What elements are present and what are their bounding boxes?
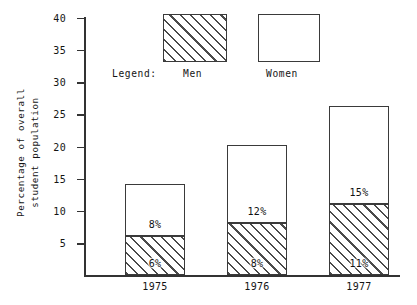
y-tick-label-30: 30: [53, 77, 66, 88]
bar-1977-segment-women: 15%: [329, 106, 389, 204]
bar-1976-segment-women: 12%: [227, 145, 287, 223]
stacked-bar-chart: Percentage of overall student population…: [0, 0, 417, 305]
bar-1975-women-value: 8%: [149, 219, 162, 230]
y-tick-5: 5: [77, 243, 84, 244]
bar-1977: 11% 15%: [329, 106, 389, 275]
y-tick-label-25: 25: [53, 109, 66, 120]
y-tick-20: 20: [77, 147, 84, 148]
bar-1975-men-value: 6%: [149, 258, 162, 269]
y-tick-35: 35: [77, 50, 84, 51]
y-axis-title-text: Percentage of overall student population: [14, 88, 42, 217]
x-axis-line: [84, 275, 400, 277]
y-axis-title: Percentage of overall student population: [0, 0, 56, 305]
bar-1976: 8% 12%: [227, 145, 287, 275]
y-tick-label-15: 15: [53, 173, 66, 184]
bar-1977-segment-men: 11%: [329, 204, 389, 276]
bar-1976-segment-men: 8%: [227, 223, 287, 275]
y-axis-line: [84, 17, 86, 277]
bar-1975: 6% 8%: [125, 184, 185, 275]
y-tick-40: 40: [77, 18, 84, 19]
y-tick-25: 25: [77, 114, 84, 115]
x-tick-label-1977: 1977: [346, 281, 371, 292]
bar-1975-segment-men: 6%: [125, 236, 185, 275]
bar-1976-women-value: 12%: [248, 206, 267, 217]
y-tick-label-35: 35: [53, 45, 66, 56]
bar-1975-segment-women: 8%: [125, 184, 185, 236]
bar-1977-women-value: 15%: [350, 187, 369, 198]
bar-1977-men-value: 11%: [350, 258, 369, 269]
y-tick-label-20: 20: [53, 141, 66, 152]
y-tick-10: 10: [77, 211, 84, 212]
y-tick-30: 30: [77, 82, 84, 83]
y-tick-label-40: 40: [53, 12, 66, 23]
plot-area: 40 35 30 25 20 15 10 5 6% 8%: [84, 17, 400, 277]
x-tick-label-1975: 1975: [142, 281, 167, 292]
y-tick-label-5: 5: [60, 238, 66, 249]
x-tick-label-1976: 1976: [244, 281, 269, 292]
y-tick-15: 15: [77, 179, 84, 180]
bar-1976-men-value: 8%: [251, 258, 264, 269]
y-tick-label-10: 10: [53, 206, 66, 217]
